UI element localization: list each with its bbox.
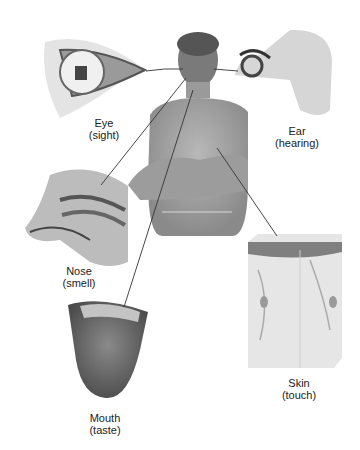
tongue-illustration xyxy=(68,301,148,398)
eye-illustration xyxy=(44,39,145,118)
skin-illustration xyxy=(248,234,342,368)
skin-label: Skin (touch) xyxy=(259,377,339,401)
nose-label: Nose (smell) xyxy=(39,265,119,289)
ear-illustration xyxy=(235,30,332,115)
senses-diagram: Eye (sight) Ear (hearing) Nose (smell) M… xyxy=(0,0,360,450)
nose-illustration xyxy=(25,170,128,266)
eye-label: Eye (sight) xyxy=(64,117,144,141)
ear-label: Ear (hearing) xyxy=(257,125,337,149)
human-figure xyxy=(128,32,248,236)
mouth-label: Mouth (taste) xyxy=(65,412,145,436)
